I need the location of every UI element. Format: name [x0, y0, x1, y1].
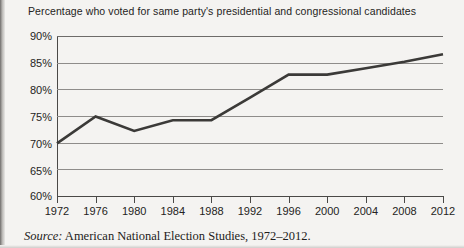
- x-tick-1984: [173, 196, 174, 203]
- x-tick-1976: [96, 196, 97, 203]
- page-edge-left: [0, 0, 5, 248]
- source-label: Source:: [24, 229, 62, 243]
- y-tick-label-90: 90%: [12, 30, 52, 42]
- y-tick-label-70: 70%: [12, 138, 52, 150]
- x-tick-2008: [404, 196, 405, 203]
- x-tick-label-1984: 1984: [152, 205, 194, 217]
- x-tick-1988: [211, 196, 212, 203]
- x-tick-label-2008: 2008: [383, 205, 425, 217]
- series-line-path: [57, 54, 443, 143]
- x-tick-1972: [57, 196, 58, 203]
- x-tick-1992: [250, 196, 251, 203]
- y-tick-label-60: 60%: [12, 190, 52, 202]
- x-tick-label-1976: 1976: [75, 205, 117, 217]
- x-tick-label-2004: 2004: [345, 205, 387, 217]
- plot-area: [57, 36, 443, 196]
- x-tick-label-2012: 2012: [422, 205, 464, 217]
- x-tick-label-1992: 1992: [229, 205, 271, 217]
- y-tick-label-65: 65%: [12, 165, 52, 177]
- x-tick-1996: [289, 196, 290, 203]
- chart-title: Percentage who voted for same party's pr…: [28, 5, 416, 17]
- x-tick-label-1996: 1996: [268, 205, 310, 217]
- chart-figure: Percentage who voted for same party's pr…: [0, 0, 464, 248]
- x-tick-label-1980: 1980: [113, 205, 155, 217]
- x-tick-1980: [134, 196, 135, 203]
- y-tick-label-80: 80%: [12, 84, 52, 96]
- x-tick-2004: [366, 196, 367, 203]
- x-tick-label-1988: 1988: [190, 205, 232, 217]
- x-tick-label-2000: 2000: [306, 205, 348, 217]
- source-note: Source: American National Election Studi…: [24, 229, 311, 244]
- x-tick-2012: [443, 196, 444, 203]
- x-tick-2000: [327, 196, 328, 203]
- y-tick-label-85: 85%: [12, 57, 52, 69]
- x-tick-label-1972: 1972: [36, 205, 78, 217]
- source-text: American National Election Studies, 1972…: [62, 229, 310, 243]
- series-line-chart: [57, 36, 443, 197]
- y-tick-label-75: 75%: [12, 111, 52, 123]
